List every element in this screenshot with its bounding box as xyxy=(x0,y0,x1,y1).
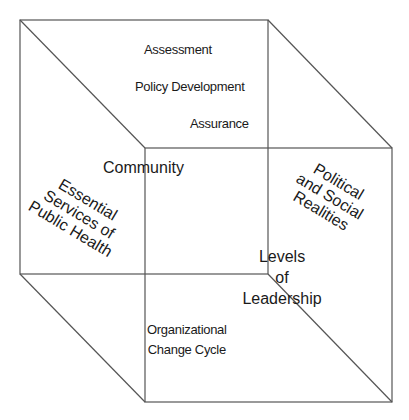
org-line-1: Organizational xyxy=(147,320,227,340)
levels-line-3: Leadership xyxy=(232,288,332,309)
cube-edge-top-right xyxy=(268,20,392,148)
label-policy-development: Policy Development xyxy=(135,80,245,93)
label-assessment: Assessment xyxy=(144,43,212,56)
label-organizational-change: Organizational Change Cycle xyxy=(147,320,227,360)
label-assurance: Assurance xyxy=(190,117,249,130)
levels-line-1: Levels xyxy=(232,246,332,267)
levels-line-2: of xyxy=(232,267,332,288)
label-levels-of-leadership: Levels of Leadership xyxy=(232,246,332,309)
cube-edge-top-left xyxy=(20,20,145,148)
cube-edge-bottom-left xyxy=(20,274,145,402)
label-community: Community xyxy=(103,160,184,176)
org-line-2: Change Cycle xyxy=(147,340,227,360)
